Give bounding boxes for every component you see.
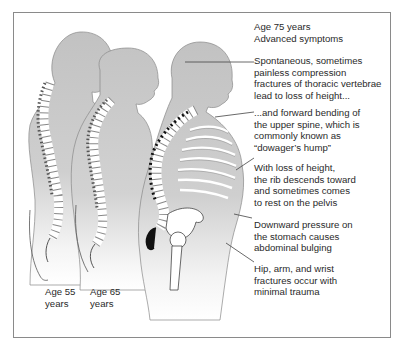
annotation-rib-descends: With loss of height, the rib descends to… xyxy=(254,162,356,208)
header-subtitle: Advanced symptoms xyxy=(254,33,343,45)
annotation-dowagers-hump: ...and forward bending of the upper spin… xyxy=(254,107,360,153)
age-65-label: Age 65 years xyxy=(90,286,120,309)
age-55-label: Age 55 years xyxy=(45,286,75,309)
annotation-fractures: Hip, arm, and wrist fractures occur with… xyxy=(254,263,337,298)
header-age: Age 75 years xyxy=(254,21,311,33)
annotation-compression-fractures: Spontaneous, sometimes painless compress… xyxy=(254,55,381,101)
annotation-abdominal-bulging: Downward pressure on the stomach causes … xyxy=(254,219,353,254)
